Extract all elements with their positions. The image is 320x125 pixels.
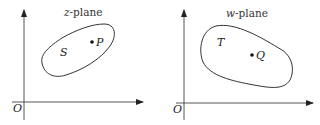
w-plane-title-var: w (226, 7, 235, 19)
region-t-label: T (217, 36, 226, 49)
z-plane-title-suffix: -plane (70, 6, 103, 18)
point-p-dot (90, 40, 94, 44)
mapping-diagram: O z-plane S P O w-plane T Q (0, 0, 320, 125)
w-plane-title-suffix: -plane (235, 7, 268, 19)
w-plane-panel: O w-plane T Q (173, 7, 313, 120)
region-s-boundary (42, 24, 115, 76)
z-plane-origin-label: O (13, 102, 22, 115)
point-q-dot (250, 53, 254, 57)
region-s-label: S (60, 46, 68, 59)
z-plane-panel: O z-plane S P (12, 6, 143, 120)
point-p-label: P (95, 36, 104, 49)
point-q-label: Q (256, 49, 265, 62)
w-plane-origin-label: O (173, 103, 182, 116)
z-plane-title: z-plane (63, 6, 102, 18)
w-plane-title: w-plane (226, 7, 268, 19)
region-t-boundary (201, 25, 293, 87)
